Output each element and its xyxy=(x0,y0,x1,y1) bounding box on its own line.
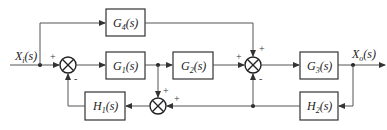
summing-junction-3: + + xyxy=(150,85,180,114)
block-g2: G2(s) xyxy=(173,52,213,79)
block-g1: G1(s) xyxy=(106,52,145,79)
block-diagram: Xi(s) G4(s) + - G1(s) G2(s) + + - xyxy=(0,0,387,130)
svg-text:G3(s): G3(s) xyxy=(307,59,332,75)
svg-text:+: + xyxy=(50,51,56,62)
wire-to-h2 xyxy=(339,65,353,106)
svg-text:H1(s): H1(s) xyxy=(92,99,118,115)
svg-text:H2(s): H2(s) xyxy=(306,99,332,115)
block-h1: H1(s) xyxy=(85,92,125,120)
svg-text:+: + xyxy=(163,85,169,96)
svg-text:G4(s): G4(s) xyxy=(113,16,138,32)
svg-text:-: - xyxy=(259,73,262,84)
svg-text:G2(s): G2(s) xyxy=(181,59,206,75)
svg-text:+: + xyxy=(236,51,242,62)
svg-text:G1(s): G1(s) xyxy=(113,59,138,75)
block-h2: H2(s) xyxy=(300,92,338,120)
svg-text:+: + xyxy=(259,43,265,54)
svg-text:-: - xyxy=(74,73,77,84)
summing-junction-1: + - xyxy=(50,51,77,84)
input-label: Xi(s) xyxy=(14,49,37,65)
block-g3: G3(s) xyxy=(300,52,338,79)
svg-text:+: + xyxy=(174,93,180,104)
output-label: Xo(s) xyxy=(351,47,376,63)
summing-junction-2: + + - xyxy=(236,43,265,84)
block-g4: G4(s) xyxy=(106,9,145,36)
